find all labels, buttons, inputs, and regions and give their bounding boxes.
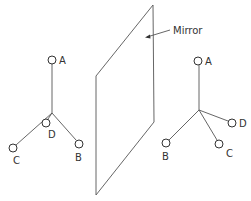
atom-d bbox=[42, 119, 50, 127]
label-c: C bbox=[226, 148, 233, 159]
bond-d bbox=[199, 110, 228, 121]
atom-a bbox=[48, 56, 56, 64]
label-c: C bbox=[13, 155, 20, 166]
left-molecule: A D C B bbox=[9, 55, 83, 166]
bond-b bbox=[169, 110, 199, 140]
label-b: B bbox=[75, 152, 82, 163]
label-a: A bbox=[205, 56, 212, 67]
mirror-label: Mirror bbox=[173, 25, 203, 36]
atom-a bbox=[194, 57, 202, 65]
atom-b bbox=[162, 139, 170, 147]
arrow-line bbox=[147, 30, 170, 37]
label-d: D bbox=[48, 129, 56, 140]
bond-c bbox=[16, 113, 52, 145]
label-a: A bbox=[59, 55, 66, 66]
mirror-image-diagram: Mirror A D C B A D B C bbox=[0, 0, 251, 201]
label-d: D bbox=[239, 118, 247, 129]
right-molecule: A D B C bbox=[162, 56, 247, 162]
atom-b bbox=[75, 140, 83, 148]
mirror-plane bbox=[96, 5, 154, 195]
label-b: B bbox=[162, 151, 169, 162]
atom-d bbox=[228, 119, 236, 127]
atom-c bbox=[9, 144, 17, 152]
arrow-head-icon bbox=[145, 35, 151, 39]
atom-c bbox=[215, 140, 223, 148]
mirror-pointer: Mirror bbox=[145, 25, 203, 39]
bond-c bbox=[199, 110, 217, 140]
